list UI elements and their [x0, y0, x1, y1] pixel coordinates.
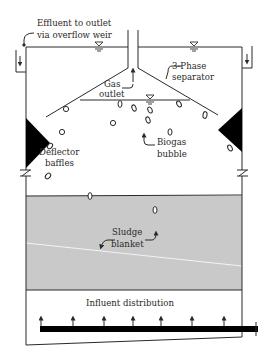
overflow-weir-right [242, 46, 252, 68]
deflector-label-line2: baffles [45, 158, 74, 168]
overflow-weir-left [16, 33, 34, 72]
effluent-label-line1: Effluent to outlet [37, 18, 112, 28]
uasb-reactor-diagram: Effluent to outlet via overflow weir Gas… [0, 0, 268, 352]
gas-outlet-label-line1: Gas [104, 79, 120, 89]
separator-label-line2: separator [172, 72, 215, 82]
break-mark-right [237, 170, 248, 176]
separator-label-line1: 3-Phase [172, 61, 206, 71]
sludge-label-line1: Sludge [112, 227, 142, 237]
influent-nozzles [41, 318, 224, 326]
biogas-label-line2: bubble [157, 149, 187, 159]
deflector-label-line1: Deflector [39, 147, 80, 157]
gas-outlet-pipe [122, 30, 138, 88]
sludge-label-line2: blanket [111, 239, 144, 249]
biogas-label-line1: Biogas [157, 137, 186, 147]
influent-label: Influent distribution [86, 298, 174, 308]
break-mark-left [20, 170, 31, 176]
gas-outlet-label-line2: outlet [99, 89, 125, 99]
effluent-label-line2: via overflow weir [36, 30, 113, 40]
